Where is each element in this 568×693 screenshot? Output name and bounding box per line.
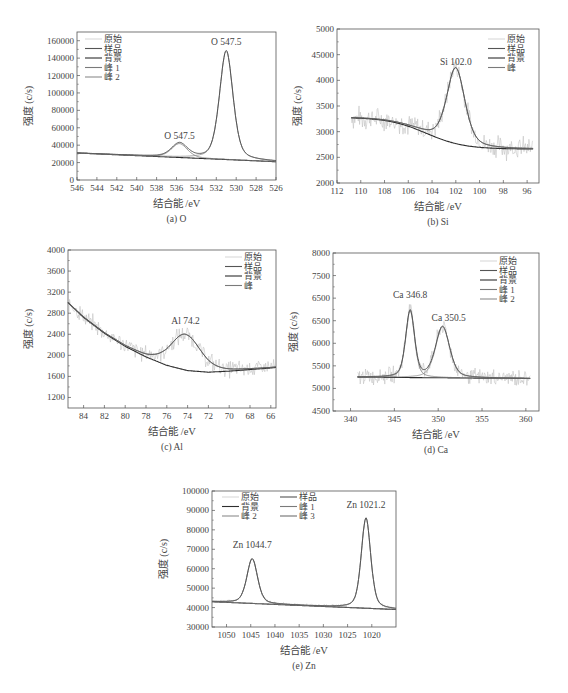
x-tick-label: 350: [431, 414, 445, 424]
peak-label: Si 102.0: [440, 57, 472, 67]
y-tick-label: 70000: [187, 544, 210, 554]
chart-zn: 3000040000500006000070000800009000010000…: [157, 486, 396, 672]
y-tick-label: 2400: [47, 329, 66, 339]
chart-o: 0200004000060000800001000001200001400001…: [22, 32, 283, 225]
legend-entry: 峰 2: [104, 72, 120, 82]
y-tick-label: 6500: [312, 316, 331, 326]
peak-label: Al 74.2: [171, 316, 200, 326]
legend-entry: 峰: [507, 63, 516, 73]
x-tick-label: 96: [523, 186, 533, 196]
x-tick-label: 542: [110, 183, 124, 193]
legend-entry: 背景: [244, 270, 262, 281]
chart-ca: 4500500055006000650065007500800034034535…: [287, 248, 539, 456]
y-tick-label: 140000: [47, 53, 75, 63]
x-tick-label: 80: [121, 411, 131, 421]
y-axis-label: 强度 (c/s): [22, 86, 35, 126]
peak-label: Zn 1021.2: [346, 500, 385, 510]
peak-label: O 547.5: [164, 131, 195, 141]
y-tick-label: 7500: [312, 271, 331, 281]
series-sample: [351, 68, 533, 149]
x-tick-label: 534: [190, 183, 204, 193]
y-tick-label: 80000: [52, 105, 75, 115]
y-axis-label: 强度 (c/s): [291, 86, 304, 126]
series-sample: [68, 302, 276, 369]
series-peak-1: [351, 68, 533, 149]
series-peak-1: [212, 559, 396, 610]
y-tick-label: 160000: [47, 36, 75, 46]
legend-entry: 原始: [241, 491, 259, 502]
legend-entry: 原始: [499, 255, 517, 266]
x-tick-label: 76: [162, 411, 172, 421]
peak-label: Ca 350.5: [432, 313, 467, 323]
x-tick-label: 360: [519, 414, 533, 424]
y-tick-label: 4500: [312, 406, 331, 416]
x-tick-label: 544: [90, 183, 104, 193]
legend-entry: 峰 2: [241, 511, 257, 521]
peak-label: O 547.5: [211, 37, 242, 47]
chart-si: 2000250030003500400045000500011211010810…: [291, 24, 539, 228]
legend-entry: 样品: [104, 43, 122, 54]
x-tick-label: 66: [266, 411, 276, 421]
legend-entry: 样品: [499, 265, 517, 276]
panel-caption: (a) O: [167, 214, 187, 225]
legend: 原始样品背景峰: [488, 33, 525, 73]
y-tick-label: 20000: [52, 158, 75, 168]
x-tick-label: 340: [344, 414, 358, 424]
series-background: [68, 303, 276, 373]
x-tick-label: 1030: [314, 630, 333, 640]
x-tick-label: 530: [229, 183, 243, 193]
x-axis-label: 结合能 /eV: [414, 200, 462, 212]
y-tick-label: 40000: [187, 603, 210, 613]
x-tick-label: 540: [130, 183, 144, 193]
series-peak-1: [68, 302, 276, 369]
legend: 原始样品背景峰 1峰 2峰 3: [222, 491, 317, 521]
x-tick-label: 1020: [363, 630, 382, 640]
y-tick-label: 30000: [187, 622, 210, 632]
series-sample: [212, 518, 396, 608]
figure-caption: [130, 680, 430, 693]
x-tick-label: 110: [354, 186, 368, 196]
panel-caption: (b) Si: [427, 217, 449, 228]
legend-entry: 样品: [299, 491, 317, 502]
x-tick-label: 355: [475, 414, 489, 424]
y-tick-label: 3200: [47, 287, 66, 297]
x-tick-label: 532: [210, 183, 224, 193]
x-tick-label: 1050: [218, 630, 237, 640]
x-tick-label: 84: [79, 411, 89, 421]
y-tick-label: 3500: [316, 101, 335, 111]
x-tick-label: 536: [170, 183, 184, 193]
y-tick-label: 6500: [312, 293, 331, 303]
y-tick-label: 2500: [316, 152, 335, 162]
y-tick-label: 5000: [316, 24, 335, 34]
legend-entry: 峰 1: [499, 285, 515, 295]
legend-entry: 样品: [507, 43, 525, 54]
legend-entry: 峰 1: [104, 63, 120, 73]
y-tick-label: 50000: [187, 583, 210, 593]
x-tick-label: 1045: [242, 630, 261, 640]
y-tick-label: 60000: [187, 564, 210, 574]
x-tick-label: 70: [225, 411, 235, 421]
y-axis-label: 强度 (c/s): [157, 539, 170, 579]
y-tick-label: 60000: [52, 123, 75, 133]
legend-entry: 背景: [241, 501, 259, 512]
y-tick-label: 100000: [47, 88, 75, 98]
y-tick-label: 3000: [316, 127, 335, 137]
x-tick-label: 546: [70, 183, 84, 193]
y-tick-label: 4000: [47, 245, 66, 255]
x-axis-label: 结合能 /eV: [153, 197, 201, 209]
legend-entry: 样品: [244, 261, 262, 272]
y-tick-label: 2000: [47, 350, 66, 360]
x-tick-label: 74: [183, 411, 193, 421]
y-axis-label: 强度 (c/s): [287, 312, 300, 352]
x-axis-label: 结合能 /eV: [148, 425, 196, 437]
legend-entry: 背景: [499, 274, 517, 285]
legend-entry: 峰 3: [299, 511, 315, 521]
charts-canvas: 0200004000060000800001000001200001400001…: [0, 0, 568, 693]
legend: 原始样品背景峰: [225, 251, 262, 291]
x-tick-label: 104: [425, 186, 439, 196]
y-tick-label: 5500: [312, 361, 331, 371]
y-tick-label: 1200: [47, 392, 66, 402]
x-tick-label: 526: [269, 183, 283, 193]
x-tick-label: 100: [473, 186, 487, 196]
series-peak-2: [358, 327, 531, 379]
